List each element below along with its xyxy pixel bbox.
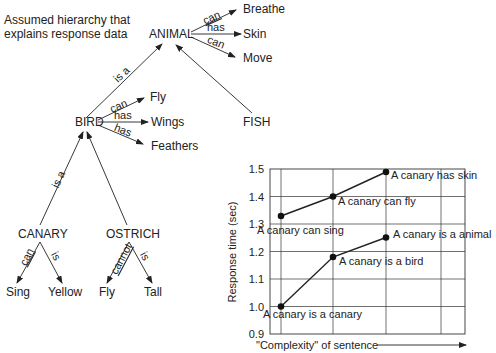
data-point <box>383 169 390 176</box>
ostrich-isa-bird-arrow <box>87 132 127 225</box>
data-point <box>330 254 337 261</box>
caption-line-2: explains response data <box>4 27 128 41</box>
label-canary-can-sing: A canary can sing <box>257 224 344 236</box>
canary-rel-can: can <box>17 246 36 267</box>
label-canary-is-bird: A canary is a bird <box>339 255 423 267</box>
data-point <box>383 234 390 241</box>
node-ostrich: OSTRICH <box>106 227 160 241</box>
caption-line-1: Assumed hierarchy that <box>4 13 131 27</box>
ostrich-prop-fly: Fly <box>99 285 115 299</box>
node-bird: BIRD <box>75 115 104 129</box>
bird-prop-feathers: Feathers <box>151 139 198 153</box>
label-canary-has-skin: A canary has skin <box>391 169 477 181</box>
node-animal: ANIMAL <box>149 27 194 41</box>
svg-text:1.5: 1.5 <box>249 163 264 175</box>
data-point <box>278 213 285 220</box>
label-canary-can-fly: A canary can fly <box>338 195 416 207</box>
y-tick-labels: 0.9 1.0 1.1 1.2 1.3 1.4 1.5 <box>249 163 264 340</box>
x-axis-label: "Complexity" of sentence <box>256 339 378 351</box>
animal-prop-breathe: Breathe <box>243 2 285 16</box>
ostrich-prop-tall: Tall <box>144 285 162 299</box>
point-labels: A canary can sing A canary can fly A can… <box>257 169 491 320</box>
animal-prop-move: Move <box>243 51 273 65</box>
semantic-network-figure: Assumed hierarchy that explains response… <box>0 0 496 353</box>
canary-prop-yellow: Yellow <box>48 285 83 299</box>
data-point <box>330 193 337 200</box>
hierarchy-tree <box>17 10 252 283</box>
y-axis-label: Response time (sec) <box>226 202 238 303</box>
svg-text:1.4: 1.4 <box>249 191 264 203</box>
series-category-line <box>281 238 386 307</box>
bird-isa-label: is a <box>111 63 132 84</box>
bird-rel-has-1: has <box>114 109 132 121</box>
node-canary: CANARY <box>18 227 68 241</box>
node-fish: FISH <box>243 115 270 129</box>
fish-isa-animal-arrow <box>176 45 252 113</box>
label-canary-is-animal: A canary is a animal <box>393 228 491 240</box>
svg-text:1.1: 1.1 <box>249 273 264 285</box>
canary-prop-sing: Sing <box>6 285 30 299</box>
svg-text:1.2: 1.2 <box>249 246 264 258</box>
animal-prop-skin: Skin <box>243 27 266 41</box>
ostrich-rel-is: is <box>138 250 153 263</box>
animal-rel-has: has <box>207 21 225 33</box>
bird-prop-wings: Wings <box>151 115 184 129</box>
animal-rel-can-2: can <box>206 33 227 51</box>
response-time-chart: 0.9 1.0 1.1 1.2 1.3 1.4 1.5 Response tim… <box>226 163 491 351</box>
bird-rel-has-2: has <box>113 121 134 139</box>
bird-prop-fly: Fly <box>150 90 166 104</box>
svg-text:1.0: 1.0 <box>249 301 264 313</box>
canary-rel-is: is <box>49 250 64 263</box>
canary-is-yellow-arrow <box>40 242 62 283</box>
label-canary-is-canary: A canary is a canary <box>263 308 363 320</box>
ostrich-rel-cannot: cannot <box>108 241 134 276</box>
